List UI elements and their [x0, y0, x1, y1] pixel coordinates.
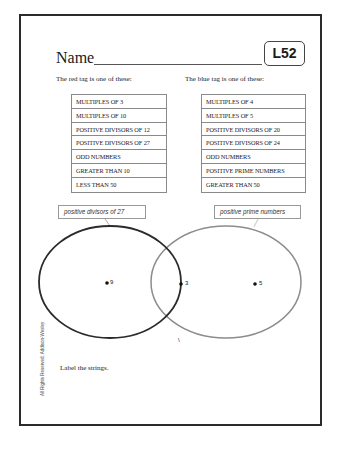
- blue-tag-connector: [254, 219, 258, 227]
- red-tag-answer-label[interactable]: positive divisors of 27: [58, 205, 146, 219]
- blue-tag-answer-label[interactable]: positive prime numbers: [214, 205, 301, 219]
- string-end-marker: \: [178, 337, 180, 343]
- instructions-text: Label the strings.: [60, 364, 108, 372]
- venn-diagram: [0, 0, 343, 452]
- point-3-label: 3: [185, 280, 188, 286]
- point-9-dot: [105, 281, 109, 285]
- point-5-dot: [253, 282, 257, 286]
- point-9-label: 9: [110, 279, 113, 285]
- copyright-notice: All Rights Reserved. Addison-Wesley: [40, 322, 45, 396]
- red-tag-connector: [105, 219, 110, 226]
- point-5-label: 5: [259, 280, 262, 286]
- blue-string-loop: [151, 226, 301, 338]
- point-3-dot: [179, 282, 183, 286]
